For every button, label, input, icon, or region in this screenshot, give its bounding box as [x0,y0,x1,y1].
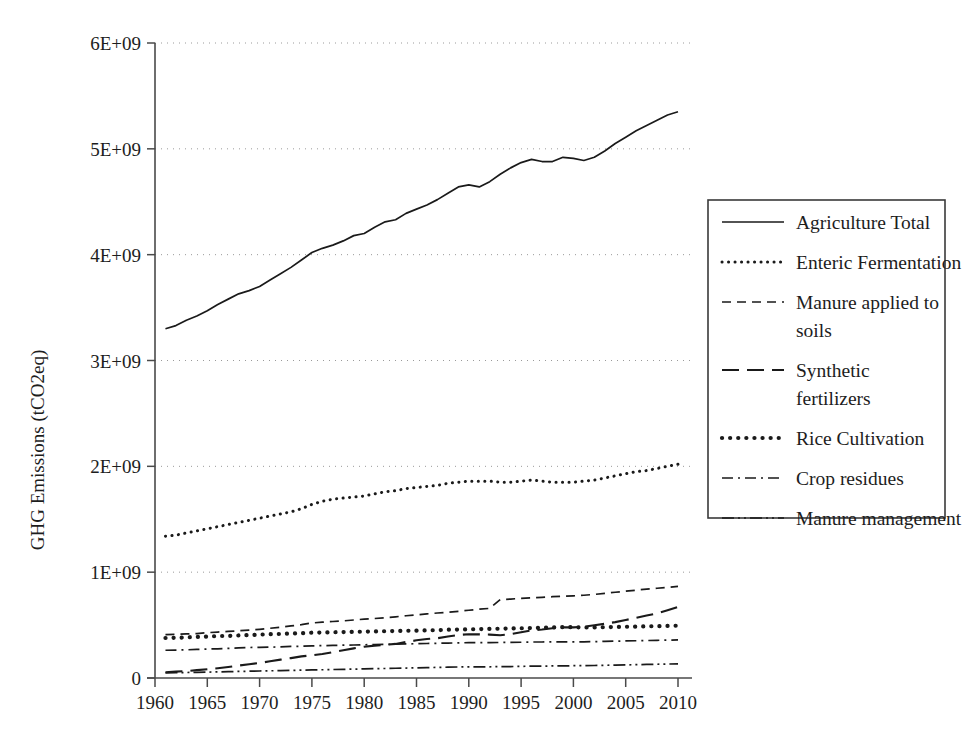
y-tick-label: 4E+09 [90,245,141,266]
legend-item-label: soils [796,320,832,341]
series-line [165,607,678,672]
y-tick-label: 3E+09 [90,351,141,372]
gridlines [155,43,692,572]
legend-item-label: Synthetic [796,360,870,381]
data-series-group [165,112,678,673]
x-tick-label: 1965 [188,692,226,713]
chart-legend: Agriculture TotalEnteric FermentationMan… [708,200,962,529]
x-tick-label: 1980 [345,692,383,713]
legend-item-label: Rice Cultivation [796,428,925,449]
line-chart: 01E+092E+093E+094E+095E+096E+09 19601965… [0,0,973,745]
x-tick-label: 1975 [293,692,331,713]
legend-item-label: Manure applied to [796,292,939,313]
x-tick-label: 1970 [241,692,279,713]
y-axis-title: GHG Emissions (tCO2eq) [27,350,49,551]
x-tick-label: 2000 [554,692,592,713]
series-line [165,112,678,329]
x-tick-label: 1960 [136,692,174,713]
y-axis-tick-labels: 01E+092E+093E+094E+095E+096E+09 [90,33,141,689]
y-tick-label: 2E+09 [90,456,141,477]
legend-item-label: Crop residues [796,468,904,489]
legend-item-label: fertilizers [796,388,871,409]
x-tick-label: 1985 [398,692,436,713]
legend-item-label: Agriculture Total [796,212,931,233]
series-line [165,464,678,536]
series-line [165,626,678,638]
legend-item-label: Enteric Fermentation [796,252,961,273]
chart-figure: 01E+092E+093E+094E+095E+096E+09 19601965… [0,0,973,745]
legend-item-label: Manure management [796,508,962,529]
y-tick-label: 0 [132,668,142,689]
y-tick-label: 6E+09 [90,33,141,54]
x-tick-label: 2005 [607,692,645,713]
series-line [165,640,678,650]
y-tick-label: 1E+09 [90,562,141,583]
x-axis-tick-labels: 1960196519701975198019851990199520002005… [136,692,697,713]
x-tick-label: 2010 [659,692,697,713]
y-tick-label: 5E+09 [90,139,141,160]
x-tick-label: 1990 [450,692,488,713]
axis-ticks [147,43,678,687]
x-tick-label: 1995 [502,692,540,713]
